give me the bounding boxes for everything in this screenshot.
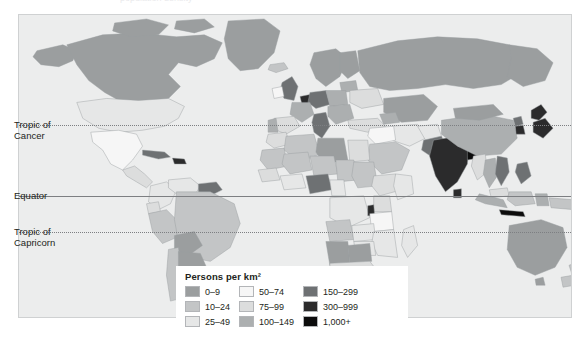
legend-item: 100–149 xyxy=(239,315,294,328)
country-cuba xyxy=(143,150,171,159)
legend-item: 75–99 xyxy=(239,300,294,313)
legend-label: 50–74 xyxy=(259,287,284,297)
country-somalia xyxy=(394,174,414,200)
country-nigeria xyxy=(306,174,332,194)
legend-item: 150–299 xyxy=(303,285,358,298)
legend-column-2: 50–74 75–99 100–149 xyxy=(239,285,294,328)
country-new-zealand-south xyxy=(561,275,571,287)
country-zambia xyxy=(352,224,376,242)
country-philippines xyxy=(515,162,531,184)
legend-label: 10–24 xyxy=(205,302,230,312)
country-indonesia-sulawesi xyxy=(535,194,549,206)
legend-column-3: 150–299 300–999 1,000+ xyxy=(303,285,358,328)
country-indonesia-java xyxy=(499,210,525,217)
country-sri-lanka xyxy=(453,189,461,198)
country-ivory-coast-ghana xyxy=(280,174,306,190)
country-hispaniola xyxy=(172,158,186,164)
country-mali xyxy=(282,152,312,174)
legend-swatch xyxy=(239,316,254,327)
country-united-states xyxy=(77,98,185,132)
tropic-of-cancer-label: Tropic of Cancer xyxy=(14,119,51,141)
country-egypt xyxy=(348,140,370,162)
legend-swatch xyxy=(185,286,200,297)
legend-label: 1,000+ xyxy=(323,317,351,327)
country-niger xyxy=(310,156,338,176)
country-japan xyxy=(531,104,547,120)
legend-label: 100–149 xyxy=(259,317,294,327)
country-poland xyxy=(326,91,348,107)
country-namibia xyxy=(326,242,350,266)
country-new-zealand xyxy=(569,261,571,277)
legend-label: 25–49 xyxy=(205,317,230,327)
country-australia xyxy=(507,220,567,276)
country-botswana xyxy=(348,243,372,263)
legend-columns: 0–9 10–24 25–49 50–74 75–99 xyxy=(185,285,400,328)
country-malaysia xyxy=(489,188,509,198)
legend-item: 25–49 xyxy=(185,315,230,328)
map-legend: Persons per km² 0–9 10–24 25–49 xyxy=(176,266,408,332)
legend-swatch xyxy=(239,301,254,312)
country-kenya xyxy=(374,196,392,212)
country-finland xyxy=(340,51,360,79)
country-russia-east xyxy=(507,45,553,87)
country-madagascar xyxy=(402,226,418,258)
population-density-map-figure: population density xyxy=(0,0,588,352)
legend-item: 0–9 xyxy=(185,285,230,298)
country-tasmania xyxy=(535,277,545,285)
country-japan-honshu xyxy=(533,118,553,138)
country-angola xyxy=(326,220,354,242)
legend-label: 0–9 xyxy=(205,287,220,297)
legend-swatch xyxy=(185,301,200,312)
country-russia xyxy=(358,37,527,91)
legend-title: Persons per km² xyxy=(185,271,400,282)
country-ukraine xyxy=(350,89,384,109)
country-central-america xyxy=(123,166,153,188)
legend-label: 75–99 xyxy=(259,302,284,312)
country-vietnam xyxy=(495,156,509,186)
country-italy xyxy=(312,112,330,138)
country-mexico xyxy=(91,130,143,170)
country-iceland xyxy=(268,63,288,73)
country-senegal-guinea xyxy=(258,168,280,182)
country-north-korea xyxy=(513,116,523,126)
legend-swatch xyxy=(303,286,318,297)
country-peru xyxy=(149,210,179,244)
equator-label: Equator xyxy=(14,190,47,201)
legend-swatch xyxy=(303,316,318,327)
legend-item: 50–74 xyxy=(239,285,294,298)
cropped-caption-remnant: population density xyxy=(120,0,380,3)
country-indonesia-borneo xyxy=(507,192,535,206)
landmasses xyxy=(33,19,571,303)
legend-swatch xyxy=(185,316,200,327)
tropic-of-capricorn-label: Tropic of Capricorn xyxy=(14,226,55,248)
legend-item: 1,000+ xyxy=(303,315,358,328)
country-south-korea xyxy=(515,125,525,134)
legend-item: 300–999 xyxy=(303,300,358,313)
country-canada-arctic-2 xyxy=(174,19,214,33)
legend-label: 150–299 xyxy=(323,287,358,297)
country-iraq-syria xyxy=(368,126,396,144)
legend-label: 300–999 xyxy=(323,302,358,312)
country-ireland xyxy=(272,87,284,99)
country-portugal xyxy=(268,118,278,132)
legend-item: 10–24 xyxy=(185,300,230,313)
country-cameroon xyxy=(330,180,346,196)
country-canada xyxy=(67,33,222,105)
country-papua-new-guinea xyxy=(549,198,571,210)
country-greenland xyxy=(224,19,280,71)
legend-swatch xyxy=(239,286,254,297)
legend-column-1: 0–9 10–24 25–49 xyxy=(185,285,230,328)
legend-swatch xyxy=(303,301,318,312)
